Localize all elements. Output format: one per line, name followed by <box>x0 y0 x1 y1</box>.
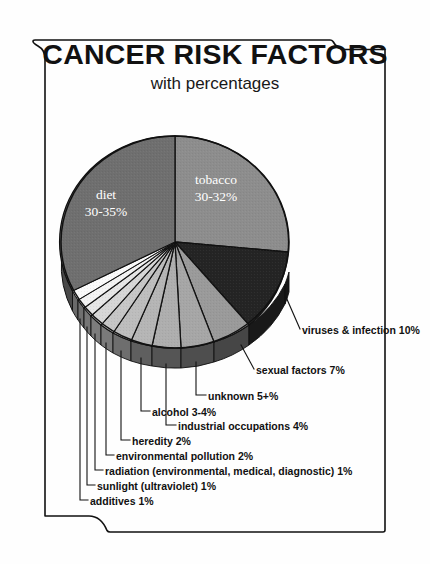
slice-label-diet-name: diet <box>59 187 153 204</box>
poster-page: CANCER RISK FACTORS with percentages <box>0 0 430 564</box>
slice-label-diet: diet 30-35% <box>59 187 153 221</box>
callout-label-industrial-occupations: industrial occupations 4% <box>178 420 308 432</box>
callout-label-heredity: heredity 2% <box>132 435 191 447</box>
callout-label-viruses-infection: viruses & infection 10% <box>302 324 420 336</box>
slice-label-diet-percent: 30-35% <box>59 204 153 221</box>
title-block: CANCER RISK FACTORS with percentages <box>0 40 430 94</box>
callout-label-radiation: radiation (environmental, medical, diagn… <box>105 465 352 477</box>
slice-label-tobacco-name: tobacco <box>168 172 264 189</box>
slice-label-tobacco: tobacco 30-32% <box>168 172 264 206</box>
page-subtitle: with percentages <box>0 74 430 94</box>
page-title: CANCER RISK FACTORS <box>0 40 430 70</box>
callout-label-environmental-pollution: environmental pollution 2% <box>116 450 253 462</box>
callout-label-unknown: unknown 5+% <box>208 390 278 402</box>
callout-label-sexual-factors: sexual factors 7% <box>256 364 345 376</box>
callout-label-alcohol: alcohol 3-4% <box>152 406 216 418</box>
callout-label-additives: additives 1% <box>90 495 154 507</box>
slice-label-tobacco-percent: 30-32% <box>168 189 264 206</box>
callout-label-sunlight: sunlight (ultraviolet) 1% <box>97 480 216 492</box>
